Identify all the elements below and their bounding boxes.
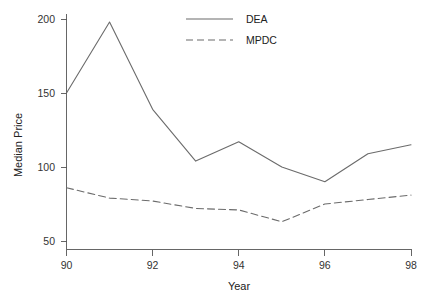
y-tick-label: 150 [37, 87, 55, 99]
y-axis-title: Median Price [12, 113, 24, 177]
x-tick-label: 98 [405, 259, 417, 271]
x-tick-label: 94 [233, 259, 245, 271]
y-axis-ticks: 50100150200 [37, 13, 66, 247]
legend-label-dea: DEA [246, 13, 268, 25]
x-tick-label: 90 [61, 259, 73, 271]
x-tick-label: 92 [147, 259, 159, 271]
legend-label-mpdc: MPDC [246, 34, 277, 46]
y-tick-label: 200 [37, 13, 55, 25]
series-line-mpdc [67, 188, 412, 222]
series-group [67, 22, 412, 222]
x-tick-label: 96 [319, 259, 331, 271]
y-tick-label: 50 [43, 235, 55, 247]
x-axis-ticks: 9092949698 [61, 250, 417, 272]
chart-container: 50100150200 9092949698 Year Median Price… [0, 0, 431, 296]
series-line-dea [67, 22, 412, 182]
line-chart: 50100150200 9092949698 Year Median Price… [0, 0, 431, 296]
chart-legend: DEA MPDC [186, 13, 277, 46]
x-axis-title: Year [228, 280, 251, 292]
y-tick-label: 100 [37, 161, 55, 173]
